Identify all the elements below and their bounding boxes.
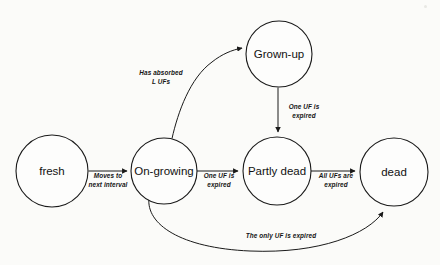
edge-on-growing-to-partly-dead-label-line1: One UF is — [204, 172, 235, 179]
node-partly-dead-label: Partly dead — [248, 165, 306, 177]
edge-on-growing-to-grown-up-path — [172, 48, 242, 139]
edge-partly-dead-to-dead-label-line2: expired — [324, 181, 348, 189]
edge-on-growing-to-dead-path — [149, 198, 383, 251]
edge-fresh-to-on-growing-label-line2: next interval — [89, 181, 128, 188]
scan-speck — [424, 5, 427, 8]
edge-on-growing-to-partly-dead: One UF is expired — [197, 171, 238, 189]
edge-grown-up-to-partly-dead: One UF is expired — [278, 88, 320, 133]
node-partly-dead[interactable]: Partly dead — [243, 137, 311, 205]
edge-on-growing-to-grown-up-label-line2: L UFs — [152, 78, 170, 85]
edge-fresh-to-on-growing: Moves to next interval — [89, 171, 128, 188]
node-dead[interactable]: dead — [360, 138, 428, 206]
node-grown-up[interactable]: Grown-up — [246, 21, 312, 87]
edge-partly-dead-to-dead-label-line1: All UFs are — [318, 172, 354, 179]
node-grown-up-label: Grown-up — [254, 48, 305, 60]
diagram-canvas: Moves to next interval Has absorbed L UF… — [0, 0, 440, 265]
edge-on-growing-to-grown-up-label-line1: Has absorbed — [139, 69, 183, 76]
edge-on-growing-to-dead: The only UF is expired — [149, 198, 383, 251]
edge-on-growing-to-dead-label: The only UF is expired — [246, 232, 317, 240]
state-diagram: Moves to next interval Has absorbed L UF… — [0, 0, 440, 265]
node-fresh-label: fresh — [39, 165, 65, 177]
edge-on-growing-to-grown-up: Has absorbed L UFs — [139, 48, 242, 139]
node-on-growing[interactable]: On-growing — [131, 138, 197, 204]
edge-fresh-to-on-growing-label-line1: Moves to — [94, 172, 123, 179]
edge-on-growing-to-partly-dead-label-line2: expired — [207, 181, 231, 189]
edge-grown-up-to-partly-dead-label-line1: One UF is — [289, 103, 320, 110]
node-fresh[interactable]: fresh — [16, 135, 88, 207]
edge-grown-up-to-partly-dead-label-line2: expired — [292, 112, 316, 120]
edge-partly-dead-to-dead: All UFs are expired — [311, 171, 355, 189]
node-dead-label: dead — [381, 166, 407, 178]
node-on-growing-label: On-growing — [134, 165, 193, 177]
